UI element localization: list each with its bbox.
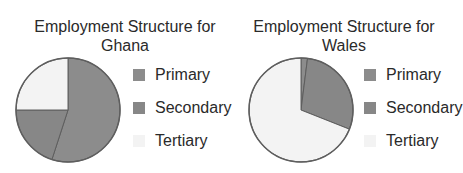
legend-swatch-primary	[133, 69, 145, 81]
legend-item-secondary: Secondary	[133, 100, 232, 116]
chart-title-ghana: Employment Structure for Ghana	[30, 17, 220, 55]
legend-ghana: Primary Secondary Tertiary	[133, 67, 232, 166]
legend-item-secondary: Secondary	[364, 100, 463, 116]
ghana-chart-panel: Employment Structure for Ghana Primary S…	[0, 0, 231, 173]
legend-swatch-secondary	[133, 102, 145, 114]
legend-swatch-tertiary	[133, 135, 145, 147]
legend-label: Tertiary	[155, 132, 207, 150]
legend-label: Tertiary	[386, 132, 438, 150]
legend-label: Primary	[155, 66, 210, 84]
pie-chart-ghana	[13, 55, 123, 165]
chart-title-line-1: Employment Structure for	[30, 17, 220, 36]
chart-title-line-2: Wales	[237, 36, 451, 55]
legend-item-primary: Primary	[133, 67, 232, 83]
wales-chart-panel: Employment Structure for Wales Primary S…	[231, 0, 463, 173]
legend-swatch-tertiary	[364, 135, 376, 147]
pie-chart-wales	[246, 55, 356, 165]
legend-item-tertiary: Tertiary	[364, 133, 463, 149]
legend-swatch-secondary	[364, 102, 376, 114]
legend-label: Primary	[386, 66, 441, 84]
chart-title-wales: Employment Structure for Wales	[237, 17, 451, 55]
legend-wales: Primary Secondary Tertiary	[364, 67, 463, 166]
legend-label: Secondary	[386, 99, 463, 117]
legend-item-tertiary: Tertiary	[133, 133, 232, 149]
legend-item-primary: Primary	[364, 67, 463, 83]
chart-title-line-2: Ghana	[30, 36, 220, 55]
chart-title-line-1: Employment Structure for	[237, 17, 451, 36]
legend-swatch-primary	[364, 69, 376, 81]
legend-label: Secondary	[155, 99, 232, 117]
